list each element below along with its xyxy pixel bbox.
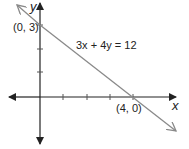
point-label-y-intercept: (0, 3) [13, 22, 39, 33]
y-axis-label: y [30, 0, 37, 13]
x-axis-label: x [172, 99, 179, 112]
graph-canvas: y x (0, 3) (4, 0) 3x + 4y = 12 [0, 0, 189, 149]
equation-label: 3x + 4y = 12 [76, 40, 137, 51]
equation-line [17, 5, 176, 131]
point-label-x-intercept: (4, 0) [116, 103, 142, 114]
